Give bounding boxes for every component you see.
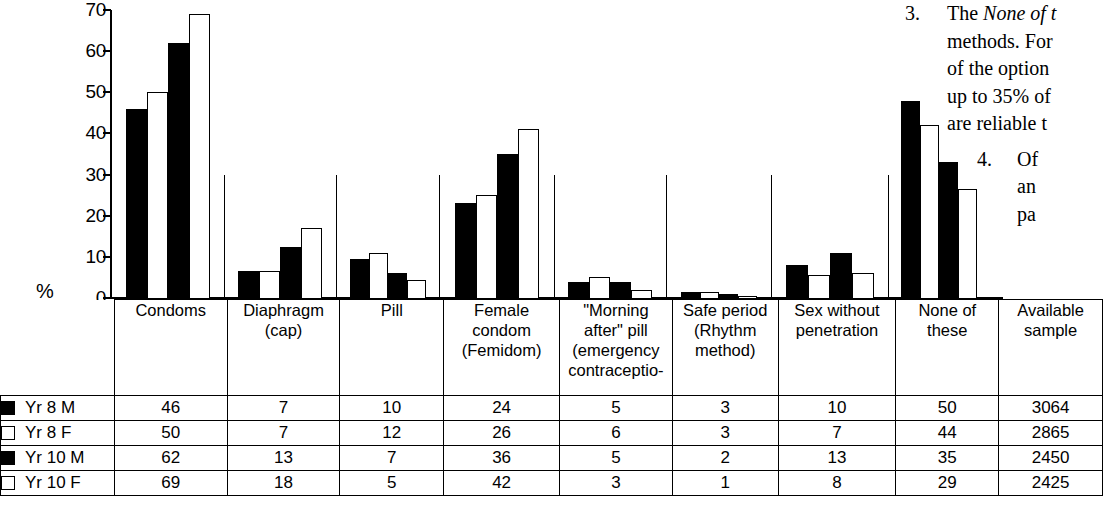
column-header-line: Available [999, 300, 1102, 320]
y-tick-label: 70 [60, 0, 106, 19]
bar [830, 253, 852, 298]
table-cell: 3 [672, 421, 778, 446]
table-cell: 1 [672, 471, 778, 496]
bar [786, 265, 808, 298]
bar-group [666, 0, 771, 298]
table-cell: 50 [896, 396, 999, 421]
column-header-line: Safe period [673, 300, 778, 320]
bar-group [224, 0, 336, 298]
column-header-line: sample [999, 320, 1102, 340]
bar-group [439, 0, 554, 298]
paragraph-line: pa [1017, 201, 1103, 229]
bar-group [112, 0, 224, 298]
paragraph-body: The None of tmethods. Forof the optionup… [947, 0, 1103, 138]
bar-chart: 010203040506070 % [0, 0, 1003, 300]
table-cell: 5 [340, 471, 444, 496]
text-run: are reliable t [947, 112, 1047, 134]
y-tick-label: 20 [60, 206, 106, 225]
table-cell: 12 [340, 421, 444, 446]
column-header: Pill [340, 300, 444, 396]
paragraph-line: Of [1017, 146, 1103, 174]
bar [631, 290, 652, 298]
legend-row-yr-10-m: Yr 10 M [1, 446, 115, 471]
y-tick-mark [103, 9, 111, 11]
bar [568, 282, 589, 298]
y-tick-label: 60 [60, 41, 106, 60]
bar [589, 277, 610, 298]
legend-label: Yr 8 F [25, 421, 71, 445]
bar [259, 271, 280, 298]
table-cell: 35 [896, 446, 999, 471]
bar-group [336, 0, 439, 298]
bar [189, 14, 210, 298]
paragraph-line: are reliable t [947, 110, 1103, 138]
paragraph-body: Ofanpa [1017, 146, 1103, 229]
paragraph-line: methods. For [947, 28, 1103, 56]
table-cell: 42 [444, 471, 560, 496]
bar [476, 195, 497, 298]
bar [369, 253, 388, 298]
column-header: Sex withoutpenetration [778, 300, 896, 396]
bar [455, 203, 476, 298]
legend-swatch-icon [1, 401, 15, 415]
legend-row-yr-8-f: Yr 8 F [1, 421, 115, 446]
legend-label: Yr 8 M [25, 396, 75, 420]
bar [738, 296, 757, 298]
table-cell: 5 [560, 446, 673, 471]
table-cell: 2425 [999, 471, 1103, 496]
table-cell: 3 [560, 471, 673, 496]
emphasis-text-run: None of t [983, 2, 1056, 24]
bar [407, 280, 426, 299]
column-header-line: contraceptio- [560, 360, 672, 380]
data-table: CondomsDiaphragm(cap)PillFemalecondom(Fe… [0, 299, 1103, 496]
table-cell: 50 [114, 421, 227, 446]
column-header-line: None of these [896, 300, 998, 340]
table-cell: 13 [227, 446, 340, 471]
y-tick-mark [103, 50, 111, 52]
table-cell: 24 [444, 396, 560, 421]
column-header-line: (emergency [560, 340, 672, 360]
paragraph-line: up to 35% of [947, 83, 1103, 111]
column-header-line: (Rhythm [673, 320, 778, 340]
column-header: None of these [896, 300, 999, 396]
table-header-row: CondomsDiaphragm(cap)PillFemalecondom(Fe… [1, 300, 1103, 396]
bar-group [554, 0, 666, 298]
table-cell: 2450 [999, 446, 1103, 471]
y-tick-label: 50 [60, 82, 106, 101]
column-header: Safe period(Rhythmmethod) [672, 300, 778, 396]
table-cell: 10 [778, 396, 896, 421]
table-cell: 69 [114, 471, 227, 496]
text-run: an [1017, 175, 1036, 197]
text-run: pa [1017, 203, 1036, 225]
paragraph-line: an [1017, 173, 1103, 201]
y-tick-mark [103, 132, 111, 134]
numbered-paragraph: 4.Ofanpa [977, 146, 1103, 229]
y-tick-label: 10 [60, 247, 106, 266]
numbered-paragraph: 3.The None of tmethods. Forof the option… [905, 0, 1103, 138]
y-tick-mark [103, 174, 111, 176]
table-cell: 10 [340, 396, 444, 421]
bar [388, 273, 407, 298]
table-cell: 18 [227, 471, 340, 496]
table-cell: 5 [560, 396, 673, 421]
column-header-line: Condoms [115, 300, 227, 320]
column-header-line: Sex without [779, 300, 896, 320]
column-header-line: Diaphragm [228, 300, 340, 320]
legend-label: Yr 10 F [25, 471, 81, 495]
table-body: Yr 8 M46710245310503064Yr 8 F50712266374… [1, 396, 1103, 496]
bar [280, 247, 301, 298]
text-run: up to 35% of [947, 85, 1051, 107]
table-cell: 3064 [999, 396, 1103, 421]
bar [518, 129, 539, 298]
table-cell: 36 [444, 446, 560, 471]
table-cell: 8 [778, 471, 896, 496]
legend-swatch-icon [1, 451, 15, 465]
column-header-line: "Morning [560, 300, 672, 320]
paragraph-number: 3. [905, 0, 920, 28]
y-tick-mark [103, 91, 111, 93]
table-row: Yr 10 M62137365213352450 [1, 446, 1103, 471]
column-header-line: after" pill [560, 320, 672, 340]
column-header-line: Female [444, 300, 559, 320]
table-cell: 29 [896, 471, 999, 496]
bar [350, 259, 369, 298]
